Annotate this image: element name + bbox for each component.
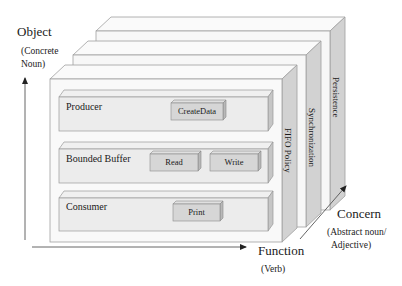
function-axis-title: Function <box>258 243 304 259</box>
function-label-createdata: CreateData <box>171 106 223 116</box>
object-label-consumer: Consumer <box>66 201 107 212</box>
function-axis-subtitle: (Verb) <box>261 263 285 276</box>
function-label-read: Read <box>150 157 198 167</box>
concern-axis-title: Concern <box>337 206 381 222</box>
object-label-bounded-buffer: Bounded Buffer <box>66 153 131 164</box>
layer-label-synchronization: Synchronization <box>307 108 317 167</box>
object-label-producer: Producer <box>66 101 102 112</box>
concern-axis-subtitle-1: (Abstract noun/ <box>327 226 386 239</box>
function-label-print: Print <box>173 207 220 217</box>
object-axis-subtitle-1: (Concrete <box>21 45 58 58</box>
object-axis-title: Object <box>17 24 52 40</box>
object-axis-subtitle-2: Noun) <box>21 58 45 71</box>
concern-axis-subtitle-2: Adjective) <box>331 239 371 252</box>
function-label-write: Write <box>210 157 258 167</box>
layer-label-persistence: Persistence <box>331 77 341 118</box>
layer-label-fifo-policy: FIFO Policy <box>283 128 293 173</box>
